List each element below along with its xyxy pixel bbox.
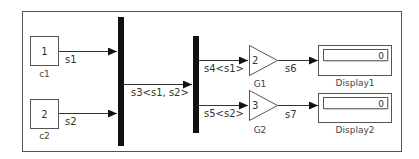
display2[interactable]: 0 bbox=[319, 94, 392, 123]
bus-creator[interactable] bbox=[118, 17, 124, 146]
gain-g2[interactable]: 3 bbox=[250, 91, 278, 121]
signal-label-s7: s7 bbox=[285, 109, 297, 120]
gain-value: 2 bbox=[252, 55, 258, 66]
signal-label-s2: s2 bbox=[65, 116, 77, 127]
gain-g1[interactable]: 2 bbox=[250, 46, 278, 76]
signal-label-s5: s5<s2> bbox=[204, 108, 244, 119]
gain-value: 3 bbox=[252, 100, 258, 111]
inport-number: 2 bbox=[41, 109, 47, 120]
gain-name: G2 bbox=[254, 125, 267, 135]
simulink-diagram: 1 c1 s1 2 c2 s2 s3<s1, s2> s4<s1> s5<s2>… bbox=[0, 0, 419, 159]
signal-label-s3: s3<s1, s2> bbox=[131, 87, 189, 98]
display-name: Display1 bbox=[336, 78, 375, 88]
inport-c1[interactable]: 1 bbox=[31, 37, 59, 66]
signal-label-s6: s6 bbox=[285, 63, 297, 74]
display-name: Display2 bbox=[336, 125, 375, 135]
inport-name: c1 bbox=[39, 69, 50, 79]
inport-c2[interactable]: 2 bbox=[31, 100, 59, 129]
display-value: 0 bbox=[378, 51, 384, 61]
display1[interactable]: 0 bbox=[319, 46, 392, 76]
signal-label-s4: s4<s1> bbox=[204, 63, 244, 74]
inport-number: 1 bbox=[41, 46, 47, 57]
bus-selector[interactable] bbox=[193, 36, 199, 133]
display-value: 0 bbox=[378, 99, 384, 109]
inport-name: c2 bbox=[39, 131, 50, 141]
gain-name: G1 bbox=[254, 79, 267, 89]
signal-label-s1: s1 bbox=[65, 54, 77, 65]
